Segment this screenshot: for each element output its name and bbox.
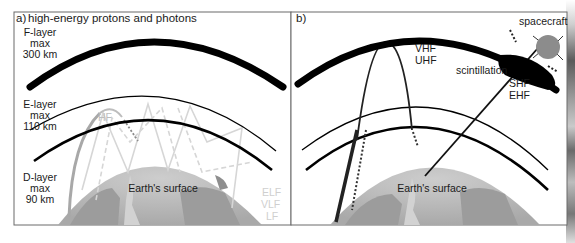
svg-text:90 km: 90 km: [26, 193, 55, 205]
ionosphere-propagation-figure: a) high-energy protons and photons F-lay…: [0, 0, 575, 243]
scintillation-label: scintillation: [456, 64, 508, 76]
earth-surface-label-a: Earth's surface: [128, 182, 198, 194]
lf-label: LF: [266, 210, 278, 222]
panel-a: a) high-energy protons and photons F-lay…: [14, 12, 291, 225]
panel-a-label: a): [16, 12, 26, 24]
panel-b-label: b): [296, 12, 306, 24]
earth-surface-label-b: Earth's surface: [397, 182, 467, 194]
panel-b: b) VHF UHF scintillation SHF EHF spacecr…: [291, 12, 568, 225]
hf-label: HF: [98, 111, 112, 123]
elf-label: ELF: [262, 186, 281, 198]
svg-text:110 km: 110 km: [23, 120, 57, 132]
panel-a-title: high-energy protons and photons: [28, 12, 197, 24]
spacecraft-label: spacecraft: [519, 15, 568, 27]
vlf-label: VLF: [261, 198, 280, 210]
vhf-label: VHF: [415, 42, 436, 54]
ehf-label: EHF: [509, 89, 530, 101]
uhf-label: UHF: [415, 54, 437, 66]
svg-text:300 km: 300 km: [23, 48, 58, 60]
shf-label: SHF: [509, 77, 530, 89]
